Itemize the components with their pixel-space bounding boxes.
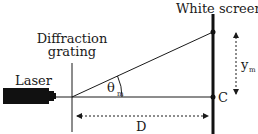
diffraction-diagram: White screen Diffraction grating Laser θ… xyxy=(0,0,258,134)
maximum-dot xyxy=(211,30,216,35)
laser-icon xyxy=(3,88,56,104)
center-label: C xyxy=(218,90,228,105)
theta-subscript: m xyxy=(117,90,124,98)
center-dot xyxy=(211,95,216,100)
grating-label-line2: grating xyxy=(48,44,96,59)
theta-label: θ xyxy=(107,80,115,95)
distance-label: D xyxy=(136,119,146,134)
ym-subscript: m xyxy=(249,66,256,74)
ym-label: y xyxy=(240,57,249,72)
screen-label: White screen xyxy=(176,1,258,16)
laser-label: Laser xyxy=(15,73,53,88)
